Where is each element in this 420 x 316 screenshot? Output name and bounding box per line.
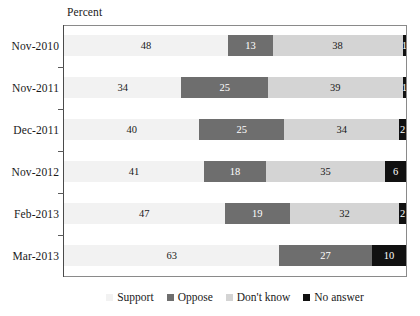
stacked-bar: 3425391 [64,77,406,98]
bar-segment-dontknow: 32 [290,203,399,224]
y-axis-tick [58,235,64,236]
bar-segment-dontknow: 38 [273,35,403,56]
legend-item-dontknow[interactable]: Don't know [226,291,291,303]
bar-segment-dontknow: 34 [284,119,399,140]
bar-segment-support: 34 [64,77,181,98]
category-label: Nov-2010 [0,25,59,67]
bar-row: Feb-20134719322 [0,193,420,235]
legend-swatch-icon [106,294,113,301]
legend-label: Support [117,291,153,303]
legend-swatch-icon [303,294,310,301]
bar-segment-support: 63 [64,245,279,266]
bar-segment-support: 40 [64,119,199,140]
bar-segment-support: 47 [64,203,225,224]
y-axis-tick [58,67,64,68]
bar-segment-oppose: 25 [181,77,267,98]
bar-segment-noanswer: 6 [385,161,406,182]
legend-swatch-icon [167,294,174,301]
bar-segment-oppose: 19 [225,203,290,224]
stacked-bar-chart: Percent Nov-20104813381Nov-20113425391De… [0,0,420,316]
category-label: Feb-2013 [0,193,59,235]
legend-item-oppose[interactable]: Oppose [167,291,213,303]
bar-segment-oppose: 13 [228,35,272,56]
stacked-bar: 4719322 [64,203,406,224]
chart-legend: SupportOpposeDon't knowNo answer [63,288,407,306]
stacked-bar: 4813381 [64,35,406,56]
bar-row: Nov-20104813381 [0,25,420,67]
bar-row: Mar-2013632710 [0,235,420,277]
bar-segment-support: 41 [64,161,204,182]
y-axis-tick [58,109,64,110]
bar-segment-noanswer: 10 [372,245,406,266]
bar-segment-support: 48 [64,35,228,56]
category-label: Nov-2012 [0,151,59,193]
legend-label: Don't know [237,291,291,303]
legend-swatch-icon [226,294,233,301]
bar-segment-oppose: 27 [279,245,371,266]
category-label: Mar-2013 [0,235,59,277]
y-axis-tick [58,193,64,194]
bar-row: Nov-20124118356 [0,151,420,193]
legend-label: No answer [314,291,364,303]
legend-item-support[interactable]: Support [106,291,153,303]
bar-segment-dontknow: 39 [268,77,403,98]
bar-segment-noanswer: 1 [403,77,406,98]
stacked-bar: 632710 [64,245,406,266]
legend-item-noanswer[interactable]: No answer [303,291,364,303]
bar-segment-noanswer: 2 [399,203,406,224]
bar-segment-oppose: 18 [204,161,266,182]
bar-row: Dec-20114025342 [0,109,420,151]
category-label: Dec-2011 [0,109,59,151]
category-label: Nov-2011 [0,67,59,109]
legend-label: Oppose [178,291,213,303]
stacked-bar: 4025342 [64,119,406,140]
bar-segment-oppose: 25 [199,119,284,140]
x-axis-caption: Percent [67,6,102,18]
bar-segment-dontknow: 35 [266,161,386,182]
bar-segment-noanswer: 2 [399,119,406,140]
y-axis-tick [58,151,64,152]
stacked-bar: 4118356 [64,161,406,182]
bar-segment-noanswer: 1 [403,35,406,56]
bar-row: Nov-20113425391 [0,67,420,109]
